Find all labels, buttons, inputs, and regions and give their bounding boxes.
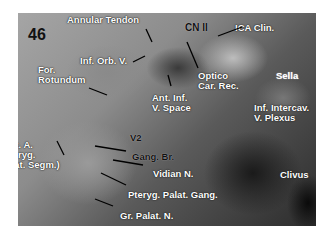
leader-lines bbox=[0, 0, 331, 240]
